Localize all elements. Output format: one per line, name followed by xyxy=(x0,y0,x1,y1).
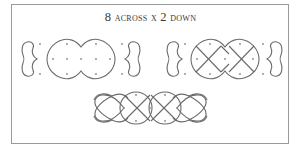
dot xyxy=(184,73,186,75)
dot xyxy=(262,73,264,75)
left-heart-loop xyxy=(167,42,182,76)
dot-grid xyxy=(123,94,178,122)
dot xyxy=(39,43,41,45)
dot xyxy=(121,73,123,75)
panel-step-1 xyxy=(22,39,140,78)
panel-step-3 xyxy=(94,92,207,124)
dot xyxy=(39,73,41,75)
dot-grid xyxy=(52,43,111,75)
right-heart-loop xyxy=(267,42,282,76)
left-heart-loop xyxy=(22,42,37,76)
dot xyxy=(184,43,186,45)
right-heart-loop xyxy=(125,42,140,76)
dot xyxy=(262,43,264,45)
kolam-diagram xyxy=(0,0,301,147)
panel-step-2 xyxy=(167,39,282,78)
right-connector-arc xyxy=(173,94,189,98)
right-connector-arc-lower xyxy=(173,118,189,122)
dot xyxy=(121,43,123,45)
